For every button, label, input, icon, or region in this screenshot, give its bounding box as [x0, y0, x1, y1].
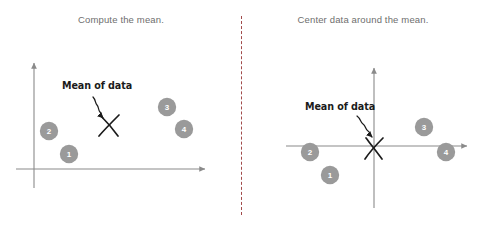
- mean-marker-x-icon: [99, 115, 119, 136]
- data-point-label: 1: [67, 150, 72, 159]
- annotation-mean-of-data-right: Mean of data: [305, 101, 375, 112]
- data-point-2: 2: [301, 143, 319, 161]
- annotation-leader-left: [93, 97, 103, 118]
- data-point-label: 2: [308, 148, 313, 157]
- panel-center-data: Center data around the mean. 2 1: [242, 0, 484, 233]
- data-point-2: 2: [40, 122, 58, 140]
- data-point-label: 4: [444, 148, 449, 157]
- plot-right: 2 1 3 4 Mean of data: [242, 0, 484, 233]
- data-point-label: 3: [422, 123, 427, 132]
- plot-left: 2 1 3 4 Mean of data: [0, 0, 242, 233]
- data-point-label: 2: [47, 127, 52, 136]
- panel-compute-mean: Compute the mean. 2 1: [0, 0, 242, 233]
- data-point-1: 1: [60, 145, 78, 163]
- data-point-label: 3: [165, 103, 170, 112]
- annotation-mean-of-data-left: Mean of data: [62, 80, 132, 91]
- data-point-4: 4: [437, 143, 455, 161]
- data-point-label: 4: [182, 125, 187, 134]
- data-point-3: 3: [415, 118, 433, 136]
- data-point-1: 1: [321, 166, 339, 184]
- annotation-leader-right: [357, 116, 372, 137]
- data-point-3: 3: [158, 98, 176, 116]
- data-point-label: 1: [328, 171, 333, 180]
- figure-canvas: Compute the mean. 2 1: [0, 0, 484, 233]
- data-point-4: 4: [175, 120, 193, 138]
